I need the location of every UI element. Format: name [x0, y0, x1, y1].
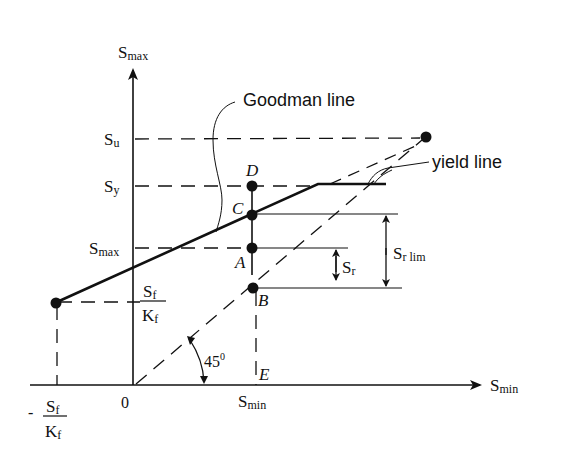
srlim-label: Sr lim: [393, 244, 426, 264]
angle-arrow-top: [187, 336, 195, 345]
tick-smax: Smax: [89, 239, 119, 259]
tick-sy: Sy: [104, 177, 119, 197]
svg-text:-: -: [28, 404, 33, 421]
label-A: A: [234, 253, 246, 272]
point-neg-sf-kf: [51, 298, 62, 309]
label-D: D: [245, 161, 259, 180]
angle-arc: [190, 340, 204, 382]
point-B: [248, 283, 259, 294]
yield-callout-curve-2: [374, 170, 392, 184]
goodman-diagram: Smax Smin 0 Su Sy Smax Sf Kf - Sf Kf Smi…: [0, 0, 561, 459]
tick-su: Su: [104, 130, 119, 150]
svg-text:Sf: Sf: [46, 397, 59, 417]
y-axis-label: Smax: [118, 43, 148, 63]
svg-text:Kf: Kf: [45, 422, 61, 442]
goodman-line-label: Goodman line: [243, 90, 355, 110]
yield-line-label: yield line: [432, 152, 502, 172]
angle-arrow-bottom: [200, 376, 208, 384]
tick-smin: Smin: [238, 392, 266, 412]
label-C: C: [232, 199, 244, 218]
label-B: B: [258, 291, 269, 310]
fraction-sf-kf-y: Sf Kf: [140, 282, 166, 326]
fraction-neg-sf-kf-x: - Sf Kf: [28, 397, 67, 442]
point-C: [247, 210, 258, 221]
yield-dashed-diagonal: [330, 144, 420, 184]
svg-text:Sf: Sf: [143, 282, 156, 302]
x-axis-label: Smin: [490, 376, 518, 396]
sr-label: Sr: [342, 258, 355, 278]
point-su-ultimate: [421, 132, 432, 143]
diagonal-45-line: [136, 140, 422, 384]
origin-label: 0: [121, 394, 129, 411]
point-A: [247, 243, 258, 254]
angle-label: 450: [204, 351, 225, 370]
svg-text:Kf: Kf: [142, 306, 158, 326]
label-E: E: [258, 365, 270, 384]
su-dashed-line: [135, 138, 420, 139]
point-D: [247, 181, 258, 192]
